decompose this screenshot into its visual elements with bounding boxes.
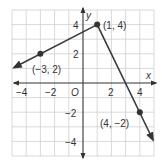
vertex-point-label: (1, 4) bbox=[103, 20, 126, 31]
x-tick-label: −4 bbox=[16, 87, 28, 98]
vertex-point bbox=[94, 22, 100, 28]
x-tick-label: 2 bbox=[108, 87, 114, 98]
coordinate-plane: y x O −4 −2 2 4 4 2 −2 −4 (1, 4) (−3, 2)… bbox=[0, 0, 162, 162]
y-axis-label: y bbox=[85, 10, 92, 21]
x-axis-label: x bbox=[145, 70, 152, 81]
point-4-neg2 bbox=[137, 109, 143, 115]
x-tick-label: −2 bbox=[45, 87, 57, 98]
origin-label: O bbox=[71, 87, 79, 98]
point-4-neg2-label: (4, −2) bbox=[100, 118, 129, 129]
y-tick-label: 2 bbox=[73, 49, 79, 60]
y-tick-label: −2 bbox=[65, 108, 77, 119]
y-tick-label: −4 bbox=[65, 137, 77, 148]
y-tick-label: 4 bbox=[73, 20, 79, 31]
point-neg3-2 bbox=[37, 51, 43, 57]
x-tick-label: 4 bbox=[137, 87, 143, 98]
point-neg3-2-label: (−3, 2) bbox=[32, 64, 61, 75]
